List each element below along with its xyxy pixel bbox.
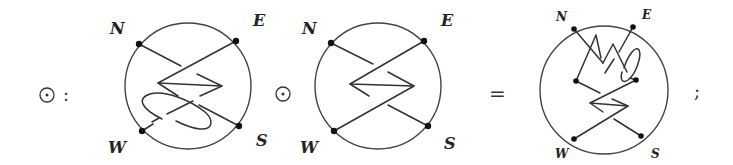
label-w: W — [108, 138, 128, 157]
endpoint-e — [233, 38, 239, 44]
strand-e — [158, 41, 236, 96]
label-n: N — [109, 19, 126, 38]
label-w: W — [555, 147, 570, 161]
definition-colon: : — [63, 84, 69, 105]
odot-operator-left — [40, 88, 54, 102]
strand-lower-upper — [576, 81, 600, 93]
strand-e-zig — [576, 35, 601, 81]
strand-e-mid — [605, 59, 614, 73]
endpoint-e — [421, 38, 427, 44]
endpoint-w — [331, 128, 337, 134]
strand-lower-end — [614, 119, 641, 136]
label-s: S — [651, 147, 660, 161]
label-n: N — [555, 10, 568, 24]
strand-n-mid — [197, 74, 222, 86]
boundary-circle — [540, 26, 668, 154]
strand-e-tail — [152, 118, 159, 122]
odot-center-dot — [46, 94, 49, 97]
strand-n-mid — [388, 72, 414, 86]
odot-center-dot — [282, 93, 285, 96]
strand-e-upper — [619, 27, 633, 52]
strand-n-upper — [139, 44, 181, 66]
label-e: E — [641, 8, 652, 22]
endpoint-n — [328, 40, 334, 46]
endpoint-n — [571, 26, 577, 32]
diagram-result-tangle: N E W S — [540, 8, 668, 161]
inner-endpoint-right — [633, 77, 639, 83]
label-n: N — [301, 19, 318, 38]
endpoint-e — [630, 24, 636, 30]
odot-operator-middle — [276, 87, 290, 101]
diagram-middle-tangle: N E W S — [300, 11, 456, 157]
endpoint-w — [571, 136, 577, 142]
tangle-equation-figure: : N E W S — [0, 0, 733, 165]
label-e: E — [440, 11, 454, 30]
endpoint-s — [638, 133, 644, 139]
endpoint-s — [236, 123, 242, 129]
strand-n-left — [350, 84, 369, 96]
label-s: S — [256, 131, 268, 150]
inner-endpoint-left — [573, 78, 579, 84]
strand-e-lower — [167, 101, 193, 114]
terminator-semicolon: ; — [694, 81, 700, 102]
endpoint-s — [425, 123, 431, 129]
strand-lower-over — [574, 80, 636, 139]
label-e: E — [252, 11, 266, 30]
endpoint-w — [139, 128, 145, 134]
equals-sign: = — [489, 82, 506, 106]
label-s: S — [444, 134, 456, 153]
endpoint-n — [136, 41, 142, 47]
diagram-left-tangle: N E W S — [108, 11, 268, 157]
label-w: W — [300, 138, 320, 157]
strand-n-lower — [199, 105, 239, 126]
strand-n-upper — [331, 43, 373, 64]
strand-n-lower — [388, 105, 428, 126]
